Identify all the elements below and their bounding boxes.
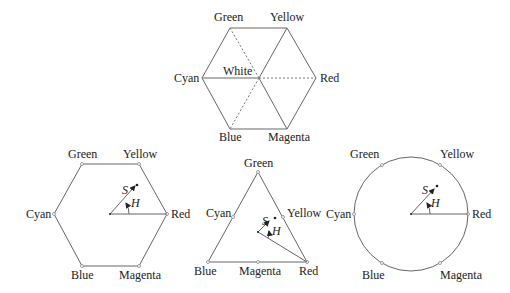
top-hexcone: Green Yellow Red Magenta Blue Cyan White — [174, 10, 339, 144]
label-h: H — [130, 196, 141, 210]
label-green: Green — [350, 147, 379, 161]
label-green: Green — [214, 10, 243, 24]
label-red: Red — [171, 207, 190, 221]
label-s: S — [122, 183, 128, 197]
label-magenta: Magenta — [440, 268, 483, 282]
hexagon-model: S H Green Yellow Red Magenta Blue Cyan — [26, 147, 190, 282]
label-green: Green — [244, 156, 273, 170]
label-yellow: Yellow — [440, 147, 474, 161]
label-blue: Blue — [71, 268, 94, 282]
label-s: S — [262, 214, 268, 228]
label-cyan: Cyan — [174, 71, 199, 85]
label-yellow: Yellow — [270, 10, 304, 24]
label-yellow: Yellow — [123, 147, 157, 161]
label-white: White — [223, 64, 252, 78]
label-green: Green — [68, 147, 97, 161]
label-h: H — [271, 224, 282, 238]
label-h: H — [430, 196, 441, 210]
label-cyan: Cyan — [326, 207, 351, 221]
label-s: S — [422, 183, 428, 197]
label-cyan: Cyan — [26, 207, 51, 221]
circle-model: S H Green Yellow Red Magenta Blue Cyan — [326, 147, 491, 282]
label-red: Red — [472, 207, 491, 221]
label-yellow: Yellow — [287, 206, 321, 220]
hsi-color-models-diagram: Green Yellow Red Magenta Blue Cyan White… — [0, 0, 510, 293]
label-magenta: Magenta — [268, 130, 311, 144]
label-blue: Blue — [219, 130, 242, 144]
hexagon-outline — [54, 164, 167, 266]
label-magenta: Magenta — [119, 268, 162, 282]
label-blue: Blue — [194, 264, 217, 278]
label-blue: Blue — [362, 268, 385, 282]
label-red: Red — [299, 264, 318, 278]
label-red: Red — [320, 71, 339, 85]
label-cyan: Cyan — [206, 206, 231, 220]
label-magenta: Magenta — [239, 264, 282, 278]
triangle-model: S H Green Yellow Red Magenta Blue Cyan — [194, 156, 321, 278]
